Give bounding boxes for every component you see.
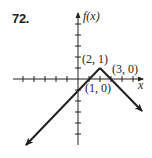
point-label-2-1: (2, 1) (82, 52, 108, 66)
y-axis-label: f(x) (83, 9, 100, 23)
point-label-1-0: (1, 0) (85, 81, 111, 95)
point-label-3-0: (3, 0) (112, 62, 138, 76)
function-graph-figure: 72. (0, 0, 152, 158)
x-axis-label: x (137, 78, 144, 92)
graph-left-ray (26, 68, 100, 145)
graph-canvas: f(x) x (2, 1) (3, 0) (1, 0) (0, 0, 152, 158)
